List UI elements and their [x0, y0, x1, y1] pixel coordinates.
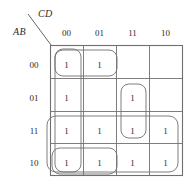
- group-col00-all-rows: [55, 49, 81, 172]
- karnaugh-map: CD AB 00 01 11 10 00 01 11 10 1 1 1 1 1 …: [0, 0, 195, 184]
- group-row00-cols00-01: [55, 50, 117, 76]
- group-row10-cols00-01: [52, 148, 117, 174]
- header-diagonal-line: [28, 14, 51, 45]
- group-rows11-10-all-cols: [47, 116, 178, 172]
- kmap-graphics: [0, 0, 195, 184]
- group-col11-rows01-11: [121, 84, 146, 138]
